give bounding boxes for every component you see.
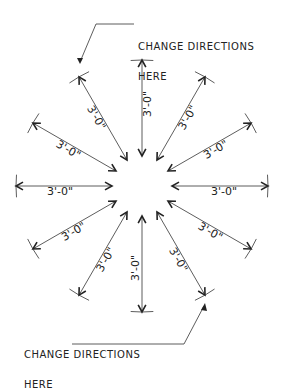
arrowhead-icon	[108, 201, 116, 208]
dimension-label: 3'-0"	[201, 138, 230, 162]
dimension-label: 3'-0"	[196, 220, 225, 244]
arrowhead-icon	[120, 152, 127, 160]
arrowhead-icon	[168, 201, 176, 208]
arrowhead-icon	[120, 212, 127, 220]
bottom-note-line2: HERE	[24, 380, 140, 390]
top-note: CHANGE DIRECTIONS HERE	[138, 22, 254, 92]
arrowhead-icon	[33, 242, 41, 249]
dimension-label: 3'-0"	[54, 138, 83, 162]
arrowhead-icon	[243, 242, 251, 249]
arrowhead-icon	[198, 287, 205, 295]
dimension-label: 3'-0"	[47, 185, 73, 198]
dimension-label: 3'-0"	[141, 91, 154, 117]
dimension-label: 3'-0"	[84, 103, 108, 132]
arrowhead-icon	[168, 164, 176, 171]
bottom-note: CHANGE DIRECTIONS HERE	[24, 330, 140, 392]
dimension-label: 3'-0"	[211, 185, 237, 198]
leader-arrow-icon	[77, 58, 83, 64]
arrowhead-icon	[243, 123, 251, 130]
top-note-line1: CHANGE DIRECTIONS	[138, 42, 254, 52]
dimension-label: 3'-0"	[94, 245, 118, 274]
top-note-line2: HERE	[138, 72, 254, 82]
leader-arrow-icon	[201, 303, 207, 311]
arrowhead-icon	[33, 123, 41, 130]
arrowhead-icon	[108, 164, 116, 171]
arrowhead-icon	[157, 152, 164, 160]
arrowhead-icon	[157, 212, 164, 220]
arrowhead-icon	[79, 287, 86, 295]
bottom-note-line1: CHANGE DIRECTIONS	[24, 350, 140, 360]
arrowhead-icon	[79, 77, 86, 85]
dimension-label: 3'-0"	[59, 220, 88, 244]
dimension-label: 3'-0"	[176, 103, 200, 132]
dimension-label: 3'-0"	[129, 255, 142, 281]
dimension-label: 3'-0"	[166, 245, 190, 274]
top-leader-line	[80, 24, 134, 62]
